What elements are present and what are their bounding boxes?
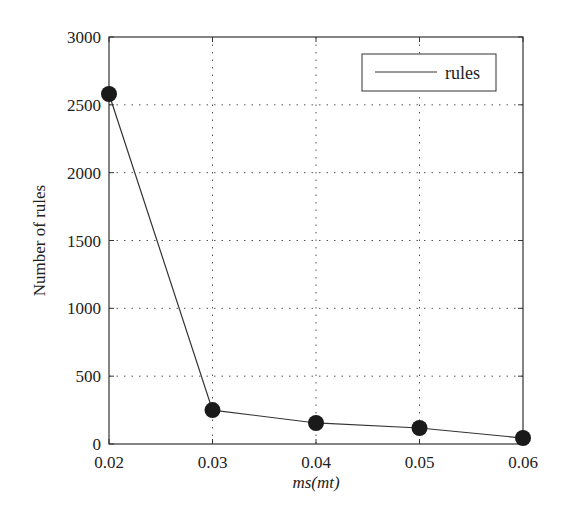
chart: 0.020.030.040.050.06 0500100015002000250…	[0, 0, 567, 519]
grid	[109, 37, 523, 444]
x-tick-label: 0.05	[405, 453, 435, 472]
y-tick-label: 2000	[67, 164, 101, 183]
legend-label: rules	[445, 63, 480, 83]
y-tick-label: 1500	[67, 232, 101, 251]
data-point	[412, 420, 428, 436]
data-point	[515, 430, 531, 446]
y-axis-label: Number of rules	[30, 185, 49, 296]
y-tick-label: 0	[93, 435, 102, 454]
series	[101, 86, 531, 446]
y-tick-label: 2500	[67, 96, 101, 115]
y-tick-label: 500	[76, 367, 102, 386]
x-tick-label: 0.03	[198, 453, 228, 472]
y-tick-label: 3000	[67, 28, 101, 47]
y-tick-label: 1000	[67, 299, 101, 318]
data-point	[205, 402, 221, 418]
series-line-rules	[109, 94, 523, 438]
legend: rules	[362, 54, 496, 91]
x-tick-label: 0.06	[508, 453, 538, 472]
x-axis-label: ms(mt)	[292, 473, 340, 492]
data-point	[308, 415, 324, 431]
data-point	[101, 86, 117, 102]
x-tick-label: 0.04	[301, 453, 331, 472]
x-tick-label: 0.02	[94, 453, 124, 472]
